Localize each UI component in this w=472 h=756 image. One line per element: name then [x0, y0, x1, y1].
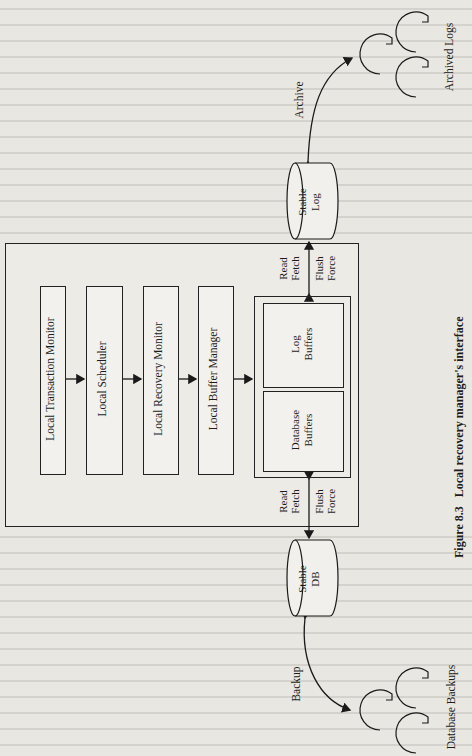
local-buffer-manager-label: Local Buffer Manager: [207, 286, 223, 473]
log-force-label: Force: [325, 251, 338, 287]
local-recovery-monitor-label: Local Recovery Monitor: [152, 286, 168, 473]
db-fetch-label: Fetch: [289, 484, 302, 520]
archived-logs-tapes: [360, 12, 428, 97]
db-force-label: Force: [325, 484, 338, 520]
database-backups-label: Database Backups: [445, 652, 459, 756]
stable-log-label: Stable Log: [296, 177, 324, 227]
backup-label: Backup: [290, 659, 304, 709]
figure-number: Figure 8.3: [452, 506, 466, 558]
local-transaction-monitor-label: Local Transaction Monitor: [44, 286, 60, 473]
figure-caption-text: Local recovery manager's interface: [452, 317, 466, 498]
archive-label: Archive: [293, 75, 307, 125]
database-buffers-label: Database Buffers: [289, 390, 317, 470]
diagram-connectors: [0, 0, 472, 756]
database-backups-tapes: [360, 668, 428, 753]
log-fetch-label: Fetch: [289, 251, 302, 287]
stable-db-label: Stable DB: [296, 554, 324, 604]
archived-logs-label: Archived Logs: [443, 12, 457, 102]
local-scheduler-label: Local Scheduler: [96, 286, 112, 473]
log-buffers-label: Log Buffers: [289, 304, 317, 384]
figure-caption: Figure 8.3 Local recovery manager's inte…: [452, 198, 468, 558]
